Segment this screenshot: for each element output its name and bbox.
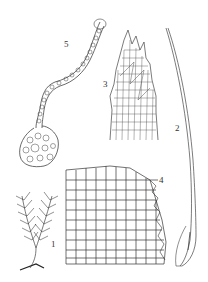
- figure-label-5: 5: [64, 40, 69, 49]
- figure-2-leaf: [166, 28, 196, 266]
- figure-1-plant: [16, 192, 58, 270]
- figure-label-1: 1: [51, 240, 56, 249]
- illustration-plate: 1 2 3 4 5: [0, 0, 208, 282]
- figure-label-3: 3: [103, 80, 108, 89]
- figure-label-4: 4: [159, 176, 164, 185]
- figure-5-filament: [20, 19, 106, 167]
- moss-drawing: [0, 0, 208, 282]
- figure-label-2: 2: [175, 124, 180, 133]
- figure-3-leaf-apex: [110, 30, 158, 140]
- figure-4-cell-network: [66, 166, 166, 264]
